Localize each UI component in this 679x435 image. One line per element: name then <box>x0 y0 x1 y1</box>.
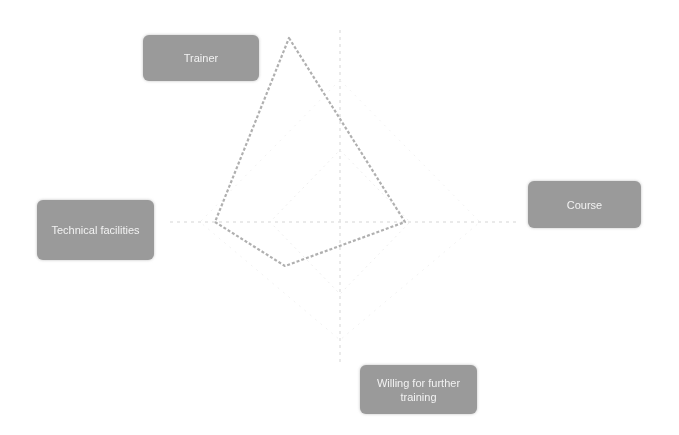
axis-label-willing-text: Willing for further training <box>366 376 471 404</box>
axis-label-willing-for-further-training: Willing for further training <box>360 365 477 414</box>
axis-label-technical-facilities: Technical facilities <box>37 200 154 260</box>
axis-label-trainer-text: Trainer <box>184 51 218 65</box>
axis-label-trainer: Trainer <box>143 35 259 81</box>
axis-label-course: Course <box>528 181 641 228</box>
axis-label-course-text: Course <box>567 198 602 212</box>
axis-label-technical-facilities-text: Technical facilities <box>51 223 139 237</box>
radar-diagram: Trainer Technical facilities Course Will… <box>0 0 679 435</box>
